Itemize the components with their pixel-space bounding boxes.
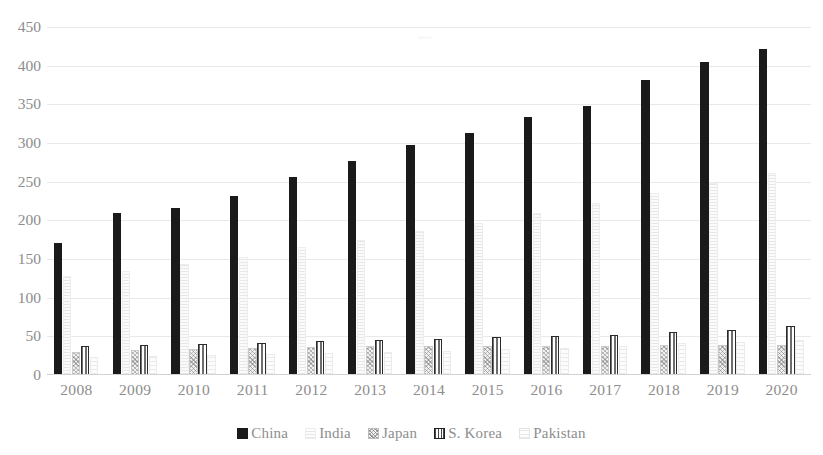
bar-s-korea-2020	[786, 326, 794, 375]
bar-japan-2012	[307, 347, 315, 375]
legend-label: China	[251, 425, 288, 442]
y-axis-tick-labels: 050100150200250300350400450	[0, 27, 41, 375]
legend-label: India	[319, 425, 351, 442]
y-axis-tick-label: 150	[0, 251, 41, 267]
x-axis-tick-label: 2020	[752, 381, 811, 400]
bar-group-2017	[576, 27, 635, 375]
legend-swatch-icon	[237, 428, 248, 439]
bar-group-2020	[752, 27, 811, 375]
bar-pakistan-2010	[207, 355, 215, 375]
bar-japan-2017	[601, 346, 609, 375]
bar-s-korea-2009	[140, 345, 148, 375]
bar-india-2015	[474, 223, 482, 375]
bar-china-2019	[700, 62, 708, 375]
x-axis-tick-label: 2016	[517, 381, 576, 400]
bar-pakistan-2008	[90, 357, 98, 375]
legend-swatch-icon	[519, 428, 530, 439]
bar-group-2009	[106, 27, 165, 375]
x-axis-tick-label: 2019	[693, 381, 752, 400]
x-axis-tick-label: 2011	[223, 381, 282, 400]
bar-india-2017	[592, 203, 600, 375]
bar-japan-2016	[542, 346, 550, 375]
bar-china-2017	[583, 106, 591, 375]
y-axis-tick-label: 350	[0, 97, 41, 113]
bar-india-2014	[415, 231, 423, 375]
bar-india-2009	[122, 271, 130, 375]
bar-pakistan-2013	[384, 352, 392, 375]
bar-group-2018	[635, 27, 694, 375]
bar-pakistan-2019	[736, 342, 744, 375]
legend-item-china[interactable]: China	[237, 425, 288, 442]
legend-item-s-korea[interactable]: S. Korea	[434, 425, 502, 442]
bar-china-2014	[406, 145, 414, 375]
bar-india-2019	[709, 183, 717, 375]
bar-group-2013	[341, 27, 400, 375]
legend-swatch-icon	[434, 428, 445, 439]
bar-s-korea-2008	[81, 346, 89, 375]
y-axis-tick-label: 300	[0, 135, 41, 151]
y-axis-tick-label: 0	[0, 367, 41, 383]
x-axis-tick-label: 2015	[458, 381, 517, 400]
y-axis-tick-label: 250	[0, 174, 41, 190]
x-axis-tick-label: 2014	[400, 381, 459, 400]
bar-s-korea-2013	[375, 340, 383, 375]
x-axis-tick-label: 2008	[47, 381, 106, 400]
bar-japan-2020	[777, 345, 785, 375]
bar-group-2019	[693, 27, 752, 375]
bar-s-korea-2012	[316, 341, 324, 375]
x-axis-tick-label: 2018	[635, 381, 694, 400]
bar-s-korea-2017	[610, 335, 618, 375]
bar-china-2010	[171, 208, 179, 375]
bar-group-2015	[458, 27, 517, 375]
bar-china-2020	[759, 49, 767, 375]
bar-pakistan-2015	[501, 349, 509, 375]
x-axis-tick-labels: 2008200920102011201220132014201520162017…	[47, 381, 811, 403]
bar-pakistan-2009	[149, 356, 157, 375]
bar-pakistan-2011	[266, 354, 274, 375]
bar-japan-2015	[483, 346, 491, 375]
bar-india-2013	[357, 240, 365, 375]
bar-japan-2010	[189, 349, 197, 375]
bar-china-2008	[54, 243, 62, 375]
bar-pakistan-2012	[325, 353, 333, 375]
y-axis-tick-label: 100	[0, 290, 41, 306]
bar-china-2012	[289, 177, 297, 375]
x-axis-tick-label: 2009	[106, 381, 165, 400]
legend-item-japan[interactable]: Japan	[368, 425, 417, 442]
bar-india-2018	[650, 193, 658, 376]
bar-pakistan-2020	[795, 340, 803, 375]
bar-s-korea-2015	[492, 337, 500, 375]
bar-group-2010	[165, 27, 224, 375]
legend-label: Japan	[382, 425, 417, 442]
bar-pakistan-2017	[619, 346, 627, 375]
bar-s-korea-2016	[551, 336, 559, 375]
x-axis-tick-label: 2012	[282, 381, 341, 400]
legend-swatch-icon	[368, 428, 379, 439]
bar-japan-2013	[366, 346, 374, 375]
x-axis-tick-label: 2010	[165, 381, 224, 400]
bar-group-2012	[282, 27, 341, 375]
legend-item-pakistan[interactable]: Pakistan	[519, 425, 585, 442]
bar-japan-2014	[424, 346, 432, 375]
y-axis-tick-label: 50	[0, 329, 41, 345]
bar-japan-2009	[131, 350, 139, 375]
legend-label: S. Korea	[448, 425, 502, 442]
bar-china-2015	[465, 133, 473, 375]
bar-pakistan-2014	[443, 351, 451, 375]
bar-group-2008	[47, 27, 106, 375]
bar-s-korea-2014	[434, 339, 442, 375]
y-axis-tick-label: 450	[0, 19, 41, 35]
bar-pakistan-2016	[560, 348, 568, 375]
bar-japan-2019	[718, 345, 726, 375]
bar-india-2012	[298, 247, 306, 375]
bar-india-2011	[239, 257, 247, 375]
bar-china-2018	[641, 80, 649, 375]
bar-group-2014	[400, 27, 459, 375]
legend-item-india[interactable]: India	[305, 425, 351, 442]
bar-china-2013	[348, 161, 356, 375]
y-axis-tick-label: 400	[0, 58, 41, 74]
bar-s-korea-2019	[727, 330, 735, 375]
y-axis-tick-label: 200	[0, 213, 41, 229]
bar-india-2016	[533, 213, 541, 375]
bar-china-2009	[113, 213, 121, 375]
